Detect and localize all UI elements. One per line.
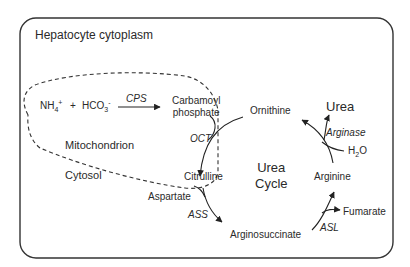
plus-sign: +: [70, 101, 76, 111]
oct-arrow: [200, 117, 243, 176]
mitochondrion-label: Mitochondrion: [65, 140, 134, 151]
bicarbonate-label: HCO3-: [82, 101, 110, 111]
enzyme-cps: CPS: [126, 94, 147, 104]
cytosol-label: Cytosol: [65, 170, 102, 181]
fumarate-label: Fumarate: [343, 207, 386, 217]
arginine-label: Arginine: [314, 172, 351, 182]
ammonium-label: NH4+: [40, 101, 62, 111]
argininosuccinate-label: Arginosuccinate: [230, 230, 301, 240]
enzyme-asl: ASL: [320, 223, 339, 233]
ornithine-label: Ornithine: [250, 106, 291, 116]
enzyme-arginase: Arginase: [326, 128, 365, 138]
enzyme-ass: ASS: [188, 210, 208, 220]
urea-label: Urea: [326, 100, 354, 113]
water-in-curve: [322, 142, 344, 151]
citrulline-label: Citrulline: [184, 172, 223, 182]
urea-cycle-label: Urea Cycle: [255, 160, 288, 193]
aspartate-label: Aspartate: [148, 192, 191, 202]
enzyme-oct: OCT: [190, 134, 211, 144]
water-label: H2O: [348, 146, 367, 156]
carbamoyl-phosphate-label: Carbamoyl phosphate: [172, 96, 220, 118]
hepatocyte-cytoplasm-label: Hepatocyte cytoplasm: [35, 29, 153, 41]
